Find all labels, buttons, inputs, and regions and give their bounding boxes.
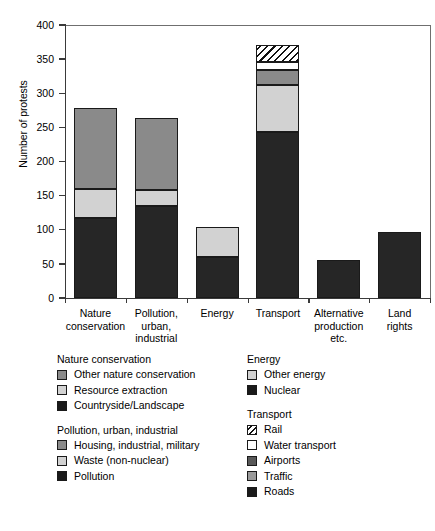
bar-segment: [317, 260, 360, 298]
bar-segment: [256, 132, 299, 298]
legend-group: Nature conservationOther nature conserva…: [57, 352, 247, 414]
legend-swatch-icon: [57, 401, 67, 411]
legend-item[interactable]: Water transport: [247, 438, 432, 454]
legend-swatch-icon: [247, 456, 257, 466]
legend-item-label: Pollution: [74, 471, 114, 482]
bar-1: [74, 25, 117, 298]
legend-item-label: Other energy: [264, 369, 325, 380]
legend-item[interactable]: Housing, industrial, military: [57, 438, 247, 454]
legend-column-left: Nature conservationOther nature conserva…: [57, 352, 247, 493]
y-axis-tick-label: 200: [14, 156, 54, 167]
legend-item-label: Nuclear: [264, 385, 300, 396]
y-axis-tick-label: 150: [14, 190, 54, 201]
x-axis-tick: [126, 298, 127, 303]
legend-group: EnergyOther energyNuclear: [247, 352, 432, 398]
legend-item[interactable]: Other nature conservation: [57, 367, 247, 383]
legend-item[interactable]: Airports: [247, 453, 432, 469]
x-axis-label: Land rights: [369, 307, 430, 332]
y-axis-tick-label: 250: [14, 122, 54, 133]
legend-swatch-icon: [247, 471, 257, 481]
y-axis-tick-label: 50: [14, 259, 54, 270]
legend-item-label: Countryside/Landscape: [74, 400, 184, 411]
plot-top-rule: [65, 25, 431, 26]
bar-segment: [256, 70, 299, 85]
legend-item-label: Water transport: [264, 440, 336, 451]
bar-segment: [135, 206, 178, 298]
legend-swatch-icon: [247, 370, 257, 380]
legend-item[interactable]: Resource extraction: [57, 383, 247, 399]
legend-swatch-icon: [247, 487, 257, 497]
legend-item[interactable]: Roads: [247, 484, 432, 500]
bar-segment: [256, 45, 299, 62]
bar-2: [135, 25, 178, 298]
legend-item[interactable]: Countryside/Landscape: [57, 398, 247, 414]
legend-item-label: Other nature conservation: [74, 369, 195, 380]
legend-item-label: Resource extraction: [74, 385, 167, 396]
y-axis-tick: [59, 161, 66, 162]
legend-swatch-icon: [57, 385, 67, 395]
x-axis-tick: [308, 298, 309, 303]
legend-item[interactable]: Nuclear: [247, 383, 432, 399]
bar-segment: [74, 189, 117, 218]
bar-segment: [196, 257, 239, 298]
bar-segment: [135, 190, 178, 206]
bar-4: [256, 25, 299, 298]
bar-segment: [74, 108, 117, 189]
y-axis-tick: [59, 58, 66, 59]
y-axis-tick: [59, 93, 66, 94]
legend-swatch-icon: [247, 440, 257, 450]
x-axis-tick: [430, 298, 431, 303]
legend-item-label: Rail: [264, 424, 282, 435]
legend-item[interactable]: Pollution: [57, 469, 247, 485]
x-axis-label: Nature conservation: [65, 307, 126, 332]
x-axis-label: Alternative production etc.: [308, 307, 369, 345]
legend-item[interactable]: Other energy: [247, 367, 432, 383]
y-axis-tick-label: 350: [14, 54, 54, 65]
legend-item[interactable]: Waste (non-nuclear): [57, 453, 247, 469]
x-axis-tick: [187, 298, 188, 303]
x-axis-label: Pollution, urban, industrial: [126, 307, 187, 345]
legend-item-label: Waste (non-nuclear): [74, 455, 169, 466]
bar-6: [378, 25, 421, 298]
y-axis-tick-label: 0: [14, 293, 54, 304]
y-axis-tick-label: 100: [14, 224, 54, 235]
x-axis-tick: [65, 298, 66, 303]
legend-group: TransportRailWater transportAirportsTraf…: [247, 407, 432, 500]
legend-item[interactable]: Rail: [247, 422, 432, 438]
legend-item-label: Housing, industrial, military: [74, 440, 199, 451]
legend-group-title: Transport: [247, 407, 432, 421]
y-axis-tick: [59, 24, 66, 25]
plot-area: Number of protests 050100150200250300350…: [0, 0, 435, 350]
bar-segment: [196, 227, 239, 257]
bar-segment: [378, 232, 421, 298]
y-axis-tick: [59, 127, 66, 128]
y-axis-tick: [59, 263, 66, 264]
stacked-bar-chart: Number of protests 050100150200250300350…: [0, 0, 435, 531]
legend-swatch-icon: [57, 471, 67, 481]
legend-item-label: Airports: [264, 455, 300, 466]
bar-5: [317, 25, 360, 298]
legend-item[interactable]: Traffic: [247, 469, 432, 485]
x-axis-tick: [369, 298, 370, 303]
bar-segment: [256, 85, 299, 132]
chart-legend: Nature conservationOther nature conserva…: [0, 352, 435, 531]
legend-group-title: Energy: [247, 352, 432, 366]
bar-segment: [74, 218, 117, 298]
plot-right-rule: [430, 25, 431, 299]
legend-swatch-icon: [57, 440, 67, 450]
y-axis-tick: [59, 195, 66, 196]
y-axis-tick-label: 300: [14, 88, 54, 99]
x-axis-label: Energy: [187, 307, 248, 320]
legend-group-title: Pollution, urban, industrial: [57, 423, 247, 437]
bar-3: [196, 25, 239, 298]
x-axis-label: Transport: [248, 307, 309, 320]
x-axis-tick: [248, 298, 249, 303]
legend-swatch-icon: [57, 370, 67, 380]
legend-group-title: Nature conservation: [57, 352, 247, 366]
legend-column-right: EnergyOther energyNuclearTransportRailWa…: [247, 352, 432, 509]
legend-item-label: Traffic: [264, 471, 293, 482]
legend-swatch-icon: [57, 456, 67, 466]
legend-group: Pollution, urban, industrialHousing, ind…: [57, 423, 247, 485]
y-axis-tick: [59, 229, 66, 230]
bar-segment: [135, 118, 178, 190]
